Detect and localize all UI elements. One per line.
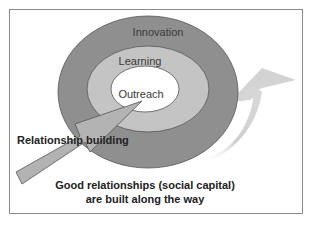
ring-label-outreach: Outreach [118, 88, 163, 100]
caption-line-2: are built along the way [50, 192, 240, 206]
arrow-label: Relationship building [17, 134, 129, 146]
ring-label-learning: Learning [119, 55, 162, 67]
caption-line-1: Good relationships (social capital) [50, 178, 240, 192]
ring-label-innovation: Innovation [133, 26, 184, 38]
